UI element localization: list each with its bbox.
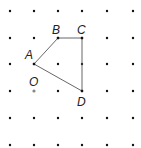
grid-dot xyxy=(106,144,108,146)
grid-dot xyxy=(9,90,11,92)
grid-dot xyxy=(33,144,35,146)
label-D: D xyxy=(77,95,86,109)
grid-dot xyxy=(9,10,11,12)
grid-dot xyxy=(132,10,134,12)
grid-dot xyxy=(33,117,35,119)
grid-dot xyxy=(57,63,59,65)
label-C: C xyxy=(77,23,86,37)
grid-dot xyxy=(106,10,108,12)
grid-dot xyxy=(81,144,83,146)
vertex-B xyxy=(57,37,60,40)
vertex-D xyxy=(81,90,84,93)
grid-dot xyxy=(57,117,59,119)
labeled-points: A B C D O xyxy=(24,23,86,109)
grid-dot xyxy=(9,63,11,65)
grid-dot xyxy=(106,63,108,65)
grid-dot xyxy=(106,117,108,119)
grid-dot xyxy=(81,10,83,12)
grid-dot xyxy=(132,117,134,119)
grid-dot xyxy=(132,63,134,65)
grid-dot xyxy=(9,117,11,119)
grid-dot xyxy=(106,37,108,39)
dot-grid-diagram: A B C D O xyxy=(0,0,141,148)
label-A: A xyxy=(24,48,33,62)
grid-dot xyxy=(9,37,11,39)
grid-dot xyxy=(9,144,11,146)
label-O: O xyxy=(29,75,38,89)
point-O-dot xyxy=(32,89,35,92)
grid-dots xyxy=(9,10,134,146)
grid-dot xyxy=(57,10,59,12)
grid-dot xyxy=(33,37,35,39)
grid-dot xyxy=(132,37,134,39)
grid-dot xyxy=(132,144,134,146)
vertex-A xyxy=(33,63,36,66)
grid-dot xyxy=(132,90,134,92)
edge-DA xyxy=(34,64,82,91)
grid-dot xyxy=(106,90,108,92)
grid-dot xyxy=(33,10,35,12)
grid-dot xyxy=(81,117,83,119)
grid-dot xyxy=(57,144,59,146)
grid-dot xyxy=(57,90,59,92)
label-B: B xyxy=(52,23,60,37)
vertex-C xyxy=(81,37,84,40)
edge-AB xyxy=(34,38,58,64)
